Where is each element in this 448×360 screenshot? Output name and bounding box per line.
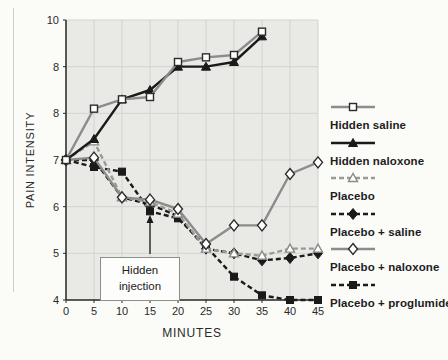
y-tick-label: 10: [47, 14, 59, 26]
data-point-filled-diamond: [349, 208, 358, 219]
legend-label: Placebo + saline: [330, 226, 448, 238]
data-point-open-square: [350, 104, 357, 111]
data-point-open-square: [203, 54, 210, 61]
data-point-open-square: [91, 105, 98, 112]
hidden-injection-annotation: Hidden injection: [100, 257, 180, 301]
legend-line-sample: [330, 278, 376, 292]
legend-line-sample: [330, 171, 376, 185]
data-point-open-diamond: [349, 244, 358, 255]
legend-line-sample: [330, 207, 376, 221]
data-point-open-square: [147, 94, 154, 101]
legend-entry-hidden-saline: Hidden saline: [330, 100, 448, 131]
legend-label: Placebo: [330, 190, 448, 202]
x-tick-label: 40: [284, 305, 296, 317]
legend-label: Placebo + proglumide: [330, 297, 448, 309]
y-tick-label: 7: [53, 154, 59, 166]
legend-label: Hidden saline: [330, 119, 448, 131]
legend-line-sample: [330, 242, 376, 256]
data-point-filled-square: [350, 281, 357, 288]
data-point-filled-square: [315, 297, 322, 304]
data-point-open-square: [231, 52, 238, 59]
x-tick-label: 25: [200, 305, 212, 317]
x-tick-label: 30: [228, 305, 240, 317]
y-tick-label: 5: [53, 247, 59, 259]
data-point-filled-square: [259, 292, 266, 299]
y-tick-label: 8: [53, 107, 59, 119]
hidden-injection-annotation-text: Hidden injection: [102, 263, 178, 294]
y-tick-label: 6: [53, 201, 59, 213]
data-point-filled-square: [287, 297, 294, 304]
x-tick-label: 20: [172, 305, 184, 317]
legend-entry-placebo-naloxone: Placebo + naloxone: [330, 242, 448, 273]
legend-line-sample: [330, 100, 376, 114]
data-point-open-square: [63, 157, 70, 164]
data-point-filled-square: [231, 273, 238, 280]
x-tick-label: 5: [91, 305, 97, 317]
x-tick-label: 0: [63, 305, 69, 317]
x-tick-label: 15: [144, 305, 156, 317]
x-tick-label: 35: [256, 305, 268, 317]
data-point-filled-square: [119, 168, 126, 175]
legend-line-sample: [330, 136, 376, 150]
y-tick-label: 4: [53, 294, 59, 306]
y-tick-label: 8: [53, 61, 59, 73]
data-point-open-square: [175, 59, 182, 66]
legend-label: Hidden naloxone: [330, 155, 448, 167]
x-tick-label: 45: [312, 305, 324, 317]
data-point-open-square: [119, 96, 126, 103]
y-axis-title: PAIN INTENSITY: [24, 20, 40, 300]
data-point-open-square: [259, 28, 266, 35]
legend-entry-hidden-naloxone: Hidden naloxone: [330, 136, 448, 167]
x-tick-label: 10: [116, 305, 128, 317]
legend-entry-placebo: Placebo: [330, 171, 448, 202]
legend-entry-placebo-proglumide: Placebo + proglumide: [330, 278, 448, 309]
legend-label: Placebo + naloxone: [330, 261, 448, 273]
legend-entry-placebo-saline: Placebo + saline: [330, 207, 448, 238]
x-axis-title: MINUTES: [66, 326, 318, 340]
